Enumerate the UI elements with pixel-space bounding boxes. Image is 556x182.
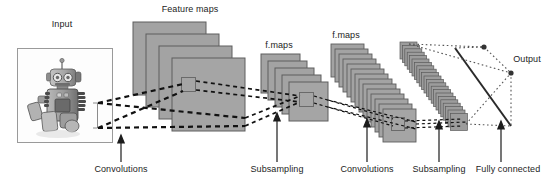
- label-output: Output: [513, 54, 541, 64]
- diagram-canvas: [0, 0, 556, 182]
- layer-stack-fmaps-1: [261, 54, 328, 121]
- label-subsampling-2: Subsampling: [412, 164, 465, 174]
- arrow-subsampling-2: [436, 121, 442, 162]
- label-subsampling-1: Subsampling: [250, 164, 303, 174]
- arrow-convolutions-1: [118, 135, 124, 162]
- output-node-2: [508, 70, 513, 75]
- label-input: Input: [52, 19, 73, 29]
- label-convolutions-2: Convolutions: [340, 164, 393, 174]
- arrow-fully-connected: [498, 121, 504, 162]
- layer-stack-feature-maps: [133, 22, 245, 131]
- label-fmaps-2: f.maps: [332, 30, 360, 40]
- label-convolutions-1: Convolutions: [94, 164, 147, 174]
- label-feature-maps: Feature maps: [162, 4, 219, 14]
- label-fully-connected: Fully connected: [476, 164, 541, 174]
- arrow-convolutions-2: [364, 119, 370, 162]
- label-fmaps-1: f.maps: [265, 40, 293, 50]
- output-node-1: [481, 44, 486, 49]
- cnn-architecture-figure: Input Feature maps f.maps f.maps Output …: [0, 0, 556, 182]
- arrow-subsampling-1: [274, 113, 280, 162]
